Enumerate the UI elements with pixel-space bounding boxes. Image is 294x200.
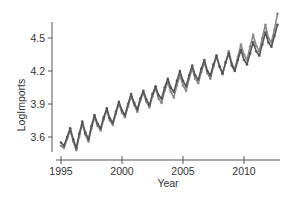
data-point-marker xyxy=(133,102,136,105)
data-point-marker xyxy=(136,108,139,111)
data-point-marker xyxy=(75,147,78,150)
x-tick-label: 2000 xyxy=(110,165,134,177)
data-point-marker xyxy=(102,116,105,119)
data-point-marker xyxy=(142,90,145,93)
data-point-marker xyxy=(60,145,63,148)
data-point-marker xyxy=(240,43,243,46)
x-tick-label: 2010 xyxy=(232,165,256,177)
data-point-marker xyxy=(167,77,170,80)
data-point-marker xyxy=(221,72,224,75)
data-point-marker xyxy=(228,52,231,55)
data-point-marker xyxy=(160,102,163,105)
data-point-marker xyxy=(231,64,234,67)
data-point-marker xyxy=(215,54,218,57)
data-point-marker xyxy=(154,85,157,88)
data-point-marker xyxy=(182,84,185,87)
data-point-marker xyxy=(115,110,118,113)
data-point-marker xyxy=(163,86,166,89)
data-point-marker xyxy=(197,82,200,85)
x-axis-ticks: 1995200020052010 xyxy=(49,156,256,177)
data-point-marker xyxy=(252,33,255,36)
data-point-marker xyxy=(84,131,87,134)
y-tick-label: 3.9 xyxy=(30,98,45,110)
data-point-marker xyxy=(243,59,246,62)
data-point-marker xyxy=(139,97,142,100)
data-point-marker xyxy=(197,79,200,82)
data-point-marker xyxy=(90,125,93,128)
x-tick-label: 2005 xyxy=(171,165,195,177)
data-point-marker xyxy=(203,59,206,62)
data-point-marker xyxy=(112,121,115,124)
data-point-marker xyxy=(179,70,182,73)
data-point-marker xyxy=(145,98,148,101)
y-axis-title: LogImports xyxy=(15,79,27,132)
data-point-marker xyxy=(261,43,264,46)
data-point-marker xyxy=(118,101,121,104)
data-point-marker xyxy=(106,107,109,110)
data-point-marker xyxy=(160,97,163,100)
data-point-marker xyxy=(194,74,197,77)
data-point-marker xyxy=(218,65,221,68)
data-point-marker xyxy=(249,52,252,55)
data-point-marker xyxy=(93,114,96,117)
data-point-marker xyxy=(185,90,188,93)
data-point-marker xyxy=(151,93,154,96)
data-point-marker xyxy=(72,138,75,141)
data-point-marker xyxy=(176,80,179,83)
x-axis-title: Year xyxy=(157,177,179,189)
data-point-marker xyxy=(99,127,102,130)
data-point-marker xyxy=(264,31,267,34)
data-point-marker xyxy=(255,50,258,53)
data-point-marker xyxy=(96,123,99,126)
data-point-marker xyxy=(258,54,261,57)
x-tick-label: 1995 xyxy=(49,165,73,177)
data-point-marker xyxy=(237,59,240,62)
data-point-marker xyxy=(200,68,203,71)
data-point-marker xyxy=(209,77,212,80)
y-tick-label: 4.5 xyxy=(30,32,45,44)
data-point-marker xyxy=(78,132,81,135)
data-point-marker xyxy=(273,35,276,38)
data-point-marker xyxy=(170,86,173,89)
data-point-marker xyxy=(109,117,112,120)
data-point-marker xyxy=(276,24,279,27)
plot-series xyxy=(60,13,279,152)
y-axis-ticks: 3.63.94.24.5 xyxy=(30,32,52,143)
data-point-marker xyxy=(173,96,176,99)
data-point-marker xyxy=(276,13,279,16)
data-point-marker xyxy=(157,94,160,97)
data-point-marker xyxy=(209,74,212,77)
data-point-marker xyxy=(191,64,194,67)
data-point-marker xyxy=(121,109,124,112)
data-point-marker xyxy=(224,61,227,64)
data-point-marker xyxy=(246,63,249,66)
data-point-marker xyxy=(148,104,151,107)
data-point-marker xyxy=(188,74,191,77)
data-point-marker xyxy=(124,114,127,117)
data-point-marker xyxy=(63,145,66,148)
data-point-marker xyxy=(252,41,255,44)
y-tick-label: 3.6 xyxy=(30,131,45,143)
data-point-marker xyxy=(270,46,273,49)
data-point-marker xyxy=(212,63,215,66)
data-point-marker xyxy=(264,24,267,27)
data-point-marker xyxy=(206,70,209,73)
data-point-marker xyxy=(173,91,176,94)
data-point-marker xyxy=(69,127,72,130)
data-point-marker xyxy=(66,136,69,139)
data-point-marker xyxy=(81,120,84,123)
data-point-marker xyxy=(170,91,173,94)
data-point-marker xyxy=(157,97,160,100)
data-point-marker xyxy=(182,80,185,83)
data-point-marker xyxy=(127,103,130,106)
data-point-marker xyxy=(185,85,188,88)
data-point-marker xyxy=(240,49,243,52)
line-chart: 3.63.94.24.5 1995200020052010 Year LogIm… xyxy=(0,0,294,200)
data-point-marker xyxy=(130,93,133,96)
data-point-marker xyxy=(267,41,270,44)
y-tick-label: 4.2 xyxy=(30,65,45,77)
data-point-marker xyxy=(60,141,63,144)
data-point-marker xyxy=(234,70,237,73)
data-point-marker xyxy=(87,138,90,141)
